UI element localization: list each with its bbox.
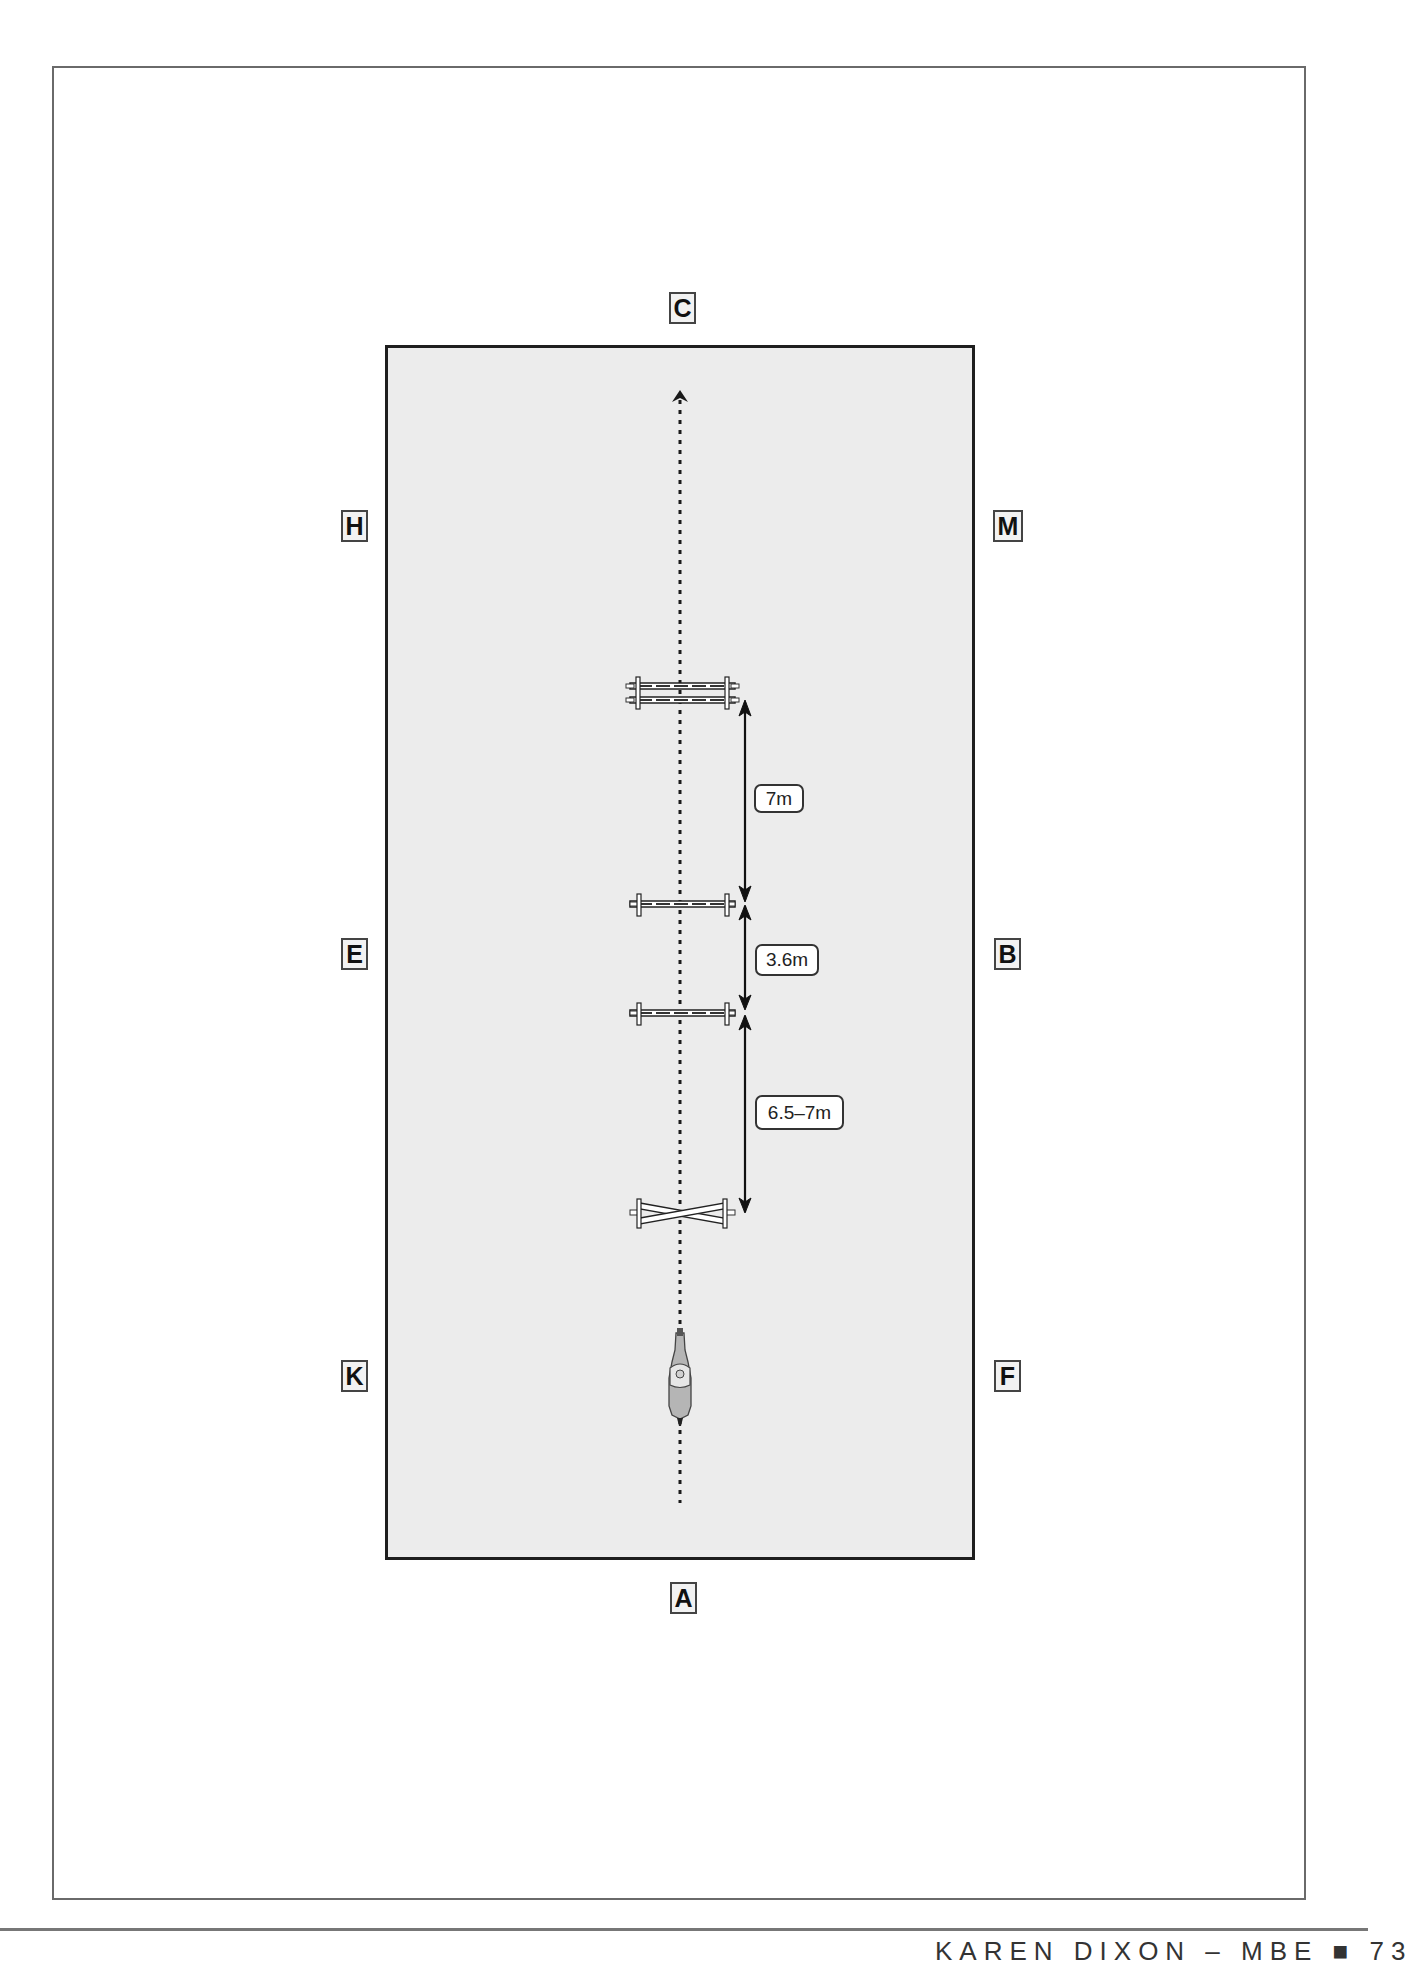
wing-icon xyxy=(725,677,729,709)
block-icon xyxy=(637,894,641,916)
footer-running-head: KAREN DIXON – MBE ■ 73 xyxy=(935,1936,1409,1964)
wing-icon xyxy=(637,1199,641,1228)
block-icon xyxy=(725,1003,729,1025)
ground-pole-2 xyxy=(630,1003,735,1025)
distance-label-6-5-7m: 6.5–7m xyxy=(755,1095,844,1130)
distance-label-3-6m: 3.6m xyxy=(755,944,819,976)
dimension-arrows xyxy=(739,700,751,1213)
cross-pole-fence xyxy=(630,1199,735,1228)
oxer-fence xyxy=(626,677,739,709)
horse-and-rider-icon xyxy=(669,1328,691,1426)
wing-icon xyxy=(723,1199,727,1228)
pole-icon xyxy=(626,683,739,689)
block-icon xyxy=(725,894,729,916)
block-icon xyxy=(637,1003,641,1025)
distance-label-7m: 7m xyxy=(754,784,804,813)
ground-pole-1 xyxy=(630,894,735,916)
pole-icon xyxy=(626,697,739,703)
footer-rule xyxy=(0,1928,1368,1931)
wing-icon xyxy=(636,677,640,709)
